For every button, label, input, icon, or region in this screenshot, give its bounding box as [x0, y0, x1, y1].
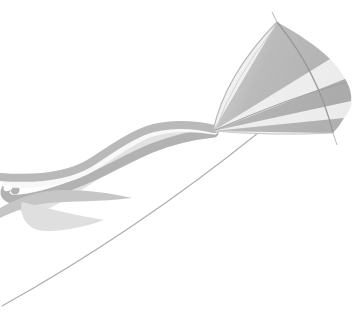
kite-scene	[0, 0, 357, 329]
kite-scene-svg	[0, 0, 357, 329]
kite-photo	[0, 0, 357, 329]
